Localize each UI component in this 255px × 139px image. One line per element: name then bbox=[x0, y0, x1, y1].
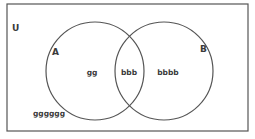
region-a-only-text: gg bbox=[87, 68, 98, 77]
set-a-label: A bbox=[52, 47, 59, 57]
region-intersection-text: bbb bbox=[121, 68, 138, 77]
universe-label: U bbox=[12, 23, 19, 33]
region-b-only-text: bbbb bbox=[157, 68, 179, 77]
venn-diagram: U A B gg bbb bbbb gggggg bbox=[0, 0, 255, 139]
region-outside-text: gggggg bbox=[33, 109, 65, 118]
set-b-label: B bbox=[200, 44, 207, 54]
